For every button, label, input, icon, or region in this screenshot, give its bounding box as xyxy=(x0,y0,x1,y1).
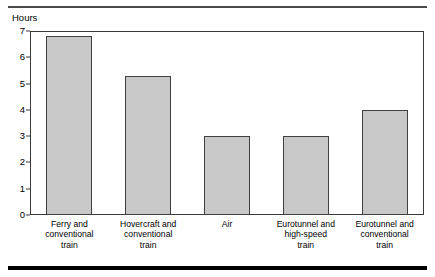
y-axis-tick-mark xyxy=(26,109,30,110)
y-axis-tick-label: 3 xyxy=(20,131,25,141)
y-axis-tick-mark xyxy=(26,215,30,216)
x-axis-category-label: Ferry and conventional train xyxy=(30,219,109,250)
bar xyxy=(283,136,329,215)
y-axis-title: Hours xyxy=(12,12,37,23)
y-axis-tick-label: 2 xyxy=(20,157,25,167)
y-axis-tick-mark xyxy=(26,136,30,137)
y-axis-tick-mark xyxy=(26,188,30,189)
top-rule xyxy=(8,6,427,8)
y-axis-tick-label: 7 xyxy=(20,26,25,36)
bar xyxy=(204,136,250,215)
y-axis-tick-mark xyxy=(26,162,30,163)
y-axis-tick-label: 6 xyxy=(20,52,25,62)
y-axis-tick-mark xyxy=(26,57,30,58)
bottom-rule xyxy=(8,266,427,270)
bar xyxy=(46,36,92,215)
bar xyxy=(362,110,408,215)
bar xyxy=(125,76,171,215)
y-axis-tick-label: 1 xyxy=(20,184,25,194)
y-axis-tick-label: 0 xyxy=(20,210,25,220)
y-axis-tick-mark xyxy=(26,31,30,32)
y-axis-tick-mark xyxy=(26,83,30,84)
y-axis-tick-label: 5 xyxy=(20,79,25,89)
x-axis-category-label: Eurotunnel and conventional train xyxy=(345,219,424,250)
x-axis-category-label: Air xyxy=(188,219,267,229)
plot-area: 01234567 xyxy=(30,31,424,215)
y-axis-tick-label: 4 xyxy=(20,105,25,115)
x-axis-category-label: Eurotunnel and high-speed train xyxy=(266,219,345,250)
chart-figure: Hours 01234567 Ferry and conventional tr… xyxy=(0,0,435,277)
x-axis-category-label: Hovercraft and conventional train xyxy=(109,219,188,250)
